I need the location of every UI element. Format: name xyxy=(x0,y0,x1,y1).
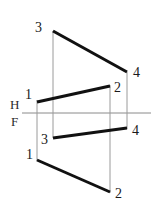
canvas-background xyxy=(0,0,155,206)
label-4-bottom: 4 xyxy=(132,123,139,138)
label-frontal-plane: F xyxy=(11,114,18,129)
label-4-top: 4 xyxy=(133,65,140,80)
label-3-bottom: 3 xyxy=(41,132,48,147)
technical-drawing-canvas: 34123412 H F xyxy=(0,0,155,206)
label-2-bottom: 2 xyxy=(115,186,122,201)
label-2-top: 2 xyxy=(114,80,121,95)
label-1-top: 1 xyxy=(25,87,32,102)
label-horizontal-plane: H xyxy=(10,97,19,112)
label-1-bottom: 1 xyxy=(26,147,33,162)
label-3-top: 3 xyxy=(35,20,42,35)
orthographic-projection-svg: 34123412 H F xyxy=(0,0,155,206)
